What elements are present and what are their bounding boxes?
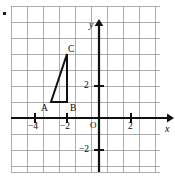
vertex-label-a: A (41, 104, 48, 114)
tick-label-y-2: 2 (84, 81, 89, 91)
vertex-label-c: C (68, 45, 74, 55)
tick-label-x-2: 2 (128, 122, 133, 132)
tick-label-x-neg2: −2 (60, 122, 70, 132)
axis-y (95, 19, 104, 172)
vertex-label-b: B (70, 104, 76, 114)
tick-label-x-neg4: −4 (28, 122, 38, 132)
axis-label-x: x (165, 124, 169, 134)
axis-label-y: y (89, 20, 93, 30)
coordinate-grid-figure: −4 −2 2 2 −2 O x y A B C (0, 0, 175, 178)
origin-label: O (90, 121, 97, 130)
tick-label-y-neg2: −2 (79, 145, 89, 155)
